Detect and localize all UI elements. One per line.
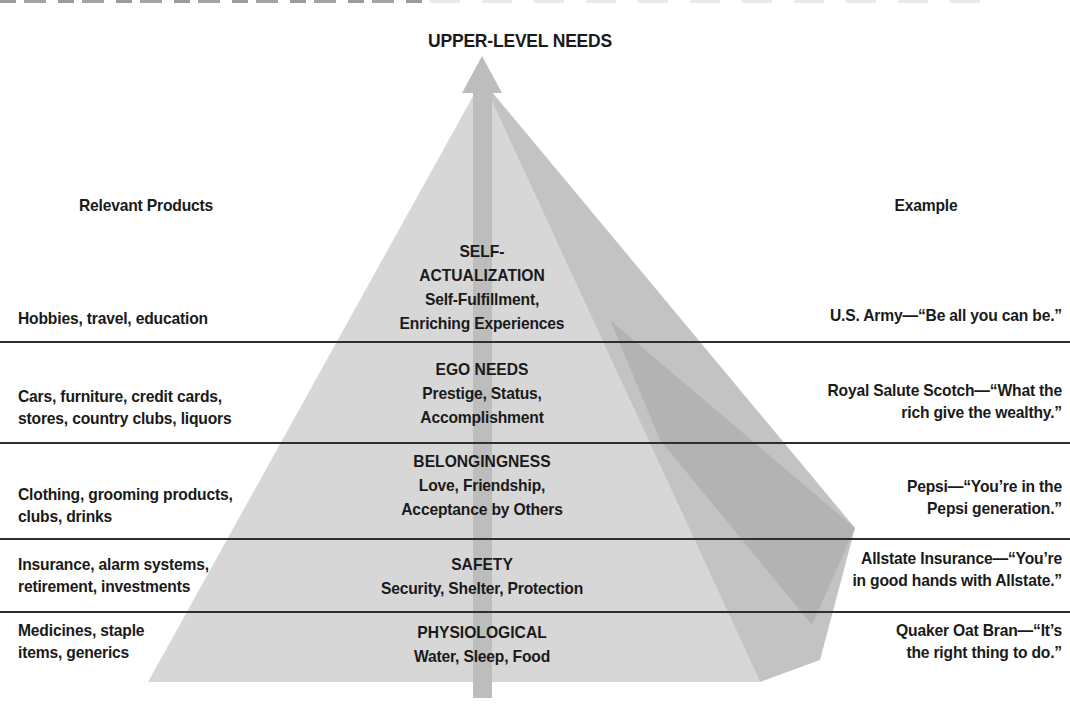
product-line: Clothing, grooming products, (18, 484, 303, 506)
example-line: Pepsi generation.” (758, 498, 1062, 520)
level5-example: Quaker Oat Bran—“It’s the right thing to… (758, 620, 1062, 664)
need-desc-line: Security, Shelter, Protection (298, 577, 666, 601)
need-desc-line: Prestige, Status, (298, 382, 666, 406)
example-line: Allstate Insurance—“You’re (758, 548, 1062, 570)
need-desc-line: Water, Sleep, Food (298, 645, 666, 669)
level5-need: PHYSIOLOGICAL Water, Sleep, Food (298, 621, 666, 669)
level1-products: Hobbies, travel, education (18, 308, 303, 330)
need-name-line: ACTUALIZATION (298, 264, 666, 288)
product-line: stores, country clubs, liquors (18, 408, 303, 430)
level3-need: BELONGINGNESS Love, Friendship, Acceptan… (298, 450, 666, 522)
product-line: clubs, drinks (18, 506, 303, 528)
level1-need: SELF- ACTUALIZATION Self-Fulfillment, En… (298, 240, 666, 336)
product-line: Medicines, staple (18, 620, 303, 642)
column-header-example: Example (857, 196, 995, 216)
example-line: Pepsi—“You’re in the (758, 476, 1062, 498)
separator-line-1 (0, 341, 1070, 343)
need-name-line: EGO NEEDS (298, 358, 666, 382)
level2-products: Cars, furniture, credit cards, stores, c… (18, 386, 303, 430)
need-desc-line: Accomplishment (298, 406, 666, 430)
product-line: Cars, furniture, credit cards, (18, 386, 303, 408)
need-desc-line: Enriching Experiences (298, 312, 666, 336)
example-line: rich give the wealthy.” (758, 402, 1062, 424)
need-name-line: SAFETY (298, 553, 666, 577)
need-name-line: PHYSIOLOGICAL (298, 621, 666, 645)
product-line: Hobbies, travel, education (18, 308, 303, 330)
level1-example: U.S. Army—“Be all you can be.” (758, 305, 1062, 327)
column-header-relevant-products: Relevant Products (48, 196, 243, 216)
level4-products: Insurance, alarm systems, retirement, in… (18, 554, 303, 598)
level4-example: Allstate Insurance—“You’re in good hands… (758, 548, 1062, 592)
example-line: in good hands with Allstate.” (758, 570, 1062, 592)
separator-line-3 (0, 538, 1070, 540)
separator-line-2 (0, 442, 1070, 444)
example-line: U.S. Army—“Be all you can be.” (758, 305, 1062, 327)
product-line: Insurance, alarm systems, (18, 554, 303, 576)
upper-level-needs-title: UPPER-LEVEL NEEDS (382, 30, 658, 52)
product-line: retirement, investments (18, 576, 303, 598)
level3-example: Pepsi—“You’re in the Pepsi generation.” (758, 476, 1062, 520)
example-line: Quaker Oat Bran—“It’s (758, 620, 1062, 642)
need-desc-line: Love, Friendship, (298, 474, 666, 498)
example-line: Royal Salute Scotch—“What the (758, 380, 1062, 402)
level3-products: Clothing, grooming products, clubs, drin… (18, 484, 303, 528)
example-line: the right thing to do.” (758, 642, 1062, 664)
maslow-hierarchy-figure: UPPER-LEVEL NEEDS Relevant Products Exam… (0, 0, 1070, 707)
level2-need: EGO NEEDS Prestige, Status, Accomplishme… (298, 358, 666, 430)
product-line: items, generics (18, 642, 303, 664)
separator-line-4 (0, 611, 1070, 613)
need-desc-line: Self-Fulfillment, (298, 288, 666, 312)
level5-products: Medicines, staple items, generics (18, 620, 303, 664)
need-name-line: SELF- (298, 240, 666, 264)
need-name-line: BELONGINGNESS (298, 450, 666, 474)
upward-arrow-head (462, 56, 502, 93)
level4-need: SAFETY Security, Shelter, Protection (298, 553, 666, 601)
need-desc-line: Acceptance by Others (298, 498, 666, 522)
level2-example: Royal Salute Scotch—“What the rich give … (758, 380, 1062, 424)
